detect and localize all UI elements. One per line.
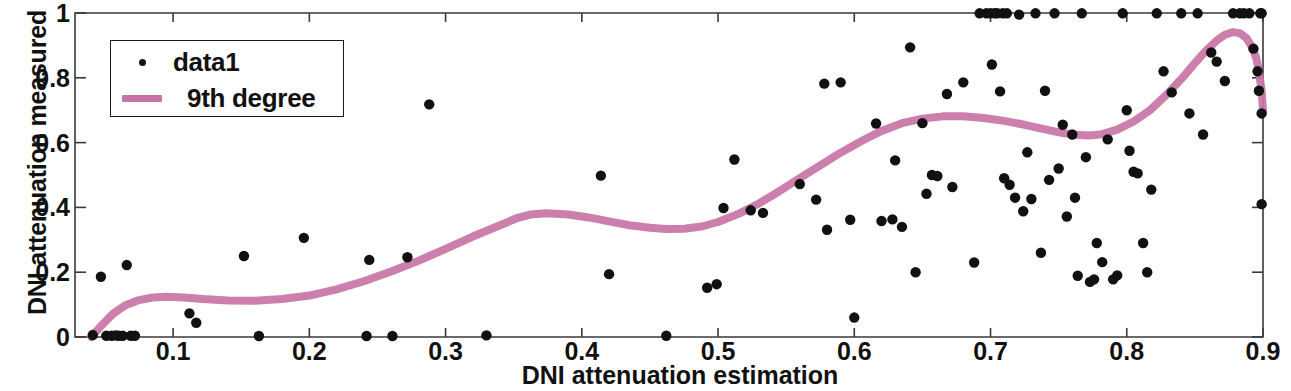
data-point [1092,238,1102,248]
data-point [1026,194,1036,204]
data-point [1117,8,1127,18]
data-point [910,267,920,277]
x-axis-tick-label: 0.1 [128,337,218,366]
data-point [921,189,931,199]
data-point [1089,274,1099,284]
y-axis-tick-label: 0.6 [8,128,70,157]
data-point [718,203,728,213]
data-point [811,194,821,204]
data-point [1256,199,1266,209]
y-axis-tick-label: 1 [8,0,70,28]
data-point [1176,8,1186,18]
data-point [1004,180,1014,190]
data-point [702,283,712,293]
data-point [887,214,897,224]
data-point [1124,146,1134,156]
data-point [1002,8,1012,18]
data-point [1036,248,1046,258]
data-point [1062,211,1072,221]
data-point [1256,108,1266,118]
y-axis-tick-label: 0.4 [8,193,70,222]
data-point [1073,271,1083,281]
data-point [947,182,957,192]
data-point [604,269,614,279]
data-point [96,272,106,282]
data-point [1138,238,1148,248]
legend: data1 9th degree [110,40,344,117]
data-point [822,225,832,235]
data-point [711,279,721,289]
data-point [1220,76,1230,86]
data-point [758,208,768,218]
data-point [1152,8,1162,18]
data-point [746,205,756,215]
data-point [1206,47,1216,57]
y-axis-tick-label: 0 [8,323,70,352]
data-point [184,308,194,318]
data-point [1198,129,1208,139]
data-point [876,216,886,226]
data-point [897,222,907,232]
data-point [1256,8,1266,18]
legend-label-fit: 9th degree [173,83,316,114]
x-axis-tick-label: 0.7 [946,337,1036,366]
data-point [122,260,132,270]
x-axis-tick-label: 0.6 [809,337,899,366]
data-point [361,331,371,341]
legend-entry-data1: data1 [111,43,343,81]
data-point [995,86,1005,96]
data-point [969,257,979,267]
legend-line-icon [111,95,173,102]
data-point [1146,184,1156,194]
dni-attenuation-scatter-chart: DNI attenuation measured 00.20.40.60.81 … [0,0,1291,391]
data-point [1067,129,1077,139]
y-axis-tick-label: 0.8 [8,63,70,92]
data-point [1211,56,1221,66]
x-axis-tick-label: 0.5 [673,337,763,366]
data-point [402,252,412,262]
x-axis-tick-label: 0.2 [264,337,354,366]
data-point [191,318,201,328]
data-point [1132,168,1142,178]
data-point [1097,257,1107,267]
data-point [942,89,952,99]
data-point [1077,8,1087,18]
data-point [299,233,309,243]
data-point [890,155,900,165]
data-point [1142,267,1152,277]
data-point [917,118,927,128]
x-axis-tick-label: 0.3 [401,337,491,366]
data-point [1167,87,1177,97]
x-axis-tick-label: 0.8 [1082,337,1172,366]
data-point [1158,66,1168,76]
data-point [958,77,968,87]
data-point [1112,270,1122,280]
data-point [1030,8,1040,18]
data-point [424,99,434,109]
data-point [1058,120,1068,130]
data-point [661,331,671,341]
y-axis-tick-label: 0.2 [8,258,70,287]
data-point [845,215,855,225]
legend-entry-fit: 9th degree [111,79,343,117]
y-axis-tick-labels: 00.20.40.60.81 [0,0,70,391]
data-point [729,154,739,164]
legend-dot-icon [111,59,173,66]
data-point [932,171,942,181]
data-point [88,330,98,340]
data-point [987,59,997,69]
legend-label-data1: data1 [173,47,239,78]
data-point [1192,8,1202,18]
x-axis-tick-label: 0.9 [1218,337,1291,366]
data-point [871,118,881,128]
data-point [387,331,397,341]
data-point [1018,206,1028,216]
data-point [1070,192,1080,202]
data-point [849,312,859,322]
data-point [596,170,606,180]
data-point [905,42,915,52]
data-point [1252,66,1262,76]
data-point [1102,134,1112,144]
data-point [1184,108,1194,118]
data-point [1010,192,1020,202]
